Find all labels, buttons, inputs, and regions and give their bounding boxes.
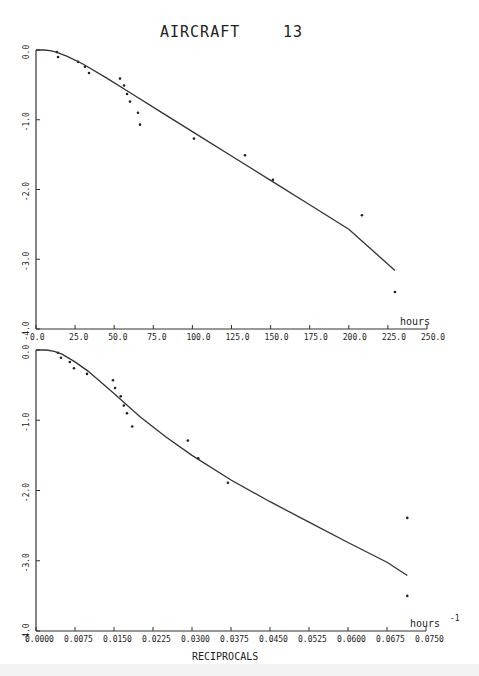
x-tick-label: 0.0525 (298, 635, 327, 644)
data-point (119, 395, 122, 398)
data-points (56, 51, 397, 294)
title-text: AIRCRAFT (160, 23, 240, 41)
x-tick-label: 0.0075 (64, 635, 93, 644)
data-point (244, 154, 247, 157)
data-point (112, 379, 115, 382)
y-tick-label: -3.0 (22, 553, 31, 572)
data-point (73, 367, 76, 370)
x-tick-label: 0.0150 (103, 635, 132, 644)
y-tick-label: 0.0 (22, 45, 31, 60)
bottom-xlabel: RECIPROCALS (192, 651, 258, 662)
x-tick-label: 175.0 (304, 333, 328, 342)
y-tick-label: -1.0 (22, 112, 31, 131)
axes: 0.00000.00750.01500.02250.03000.03750.04… (22, 345, 460, 644)
data-point (57, 56, 60, 59)
data-point (126, 412, 129, 415)
x-tick-label: 75.0 (147, 333, 166, 342)
data-point (86, 373, 89, 376)
x-tick-label: 0.0225 (142, 635, 171, 644)
scan-edge (0, 664, 479, 676)
x-tick-label: 0.0300 (181, 635, 210, 644)
y-tick-label: -3.0 (22, 251, 31, 270)
x-tick-label: 225.0 (382, 333, 406, 342)
x-tick-label: 0.0375 (220, 635, 249, 644)
x-tick-label: 25.0 (69, 333, 88, 342)
x-tick-label: 0.0750 (415, 635, 444, 644)
y-tick-label: -4.0 (22, 321, 31, 340)
data-point (69, 361, 72, 364)
data-point (119, 77, 122, 80)
y-tick-label: -1.0 (22, 412, 31, 431)
data-points (57, 352, 409, 598)
data-point (131, 425, 134, 428)
y-tick-label: -2.0 (22, 182, 31, 201)
plot-hours: 0.025.050.075.0100.0125.0150.0175.0200.0… (22, 45, 445, 342)
data-point (227, 481, 230, 484)
x-tick-label: 0.0450 (259, 635, 288, 644)
y-tick-label: 0.0 (22, 345, 31, 360)
x-tick-label: 0.0600 (337, 635, 366, 644)
x-unit-exponent: -1 (450, 614, 460, 623)
data-point (187, 439, 190, 442)
axes: 0.025.050.075.0100.0125.0150.0175.0200.0… (22, 45, 445, 342)
data-point (123, 84, 126, 87)
data-point (361, 214, 364, 217)
data-point (60, 356, 63, 359)
x-tick-label: 100.0 (186, 333, 210, 342)
x-tick-label: 200.0 (343, 333, 367, 342)
chart-canvas: AIRCRAFT 13 0.025.050.075.0100.0125.0150… (0, 0, 479, 676)
data-point (123, 404, 126, 407)
data-point (114, 387, 117, 390)
data-point (193, 137, 196, 140)
x-tick-label: 0.0 (30, 333, 45, 342)
figure: AIRCRAFT 13 0.025.050.075.0100.0125.0150… (0, 0, 479, 676)
x-unit-label: hours (410, 618, 440, 629)
title-number: 13 (283, 23, 303, 41)
data-point (139, 123, 142, 126)
y-tick-label: -2.0 (22, 483, 31, 502)
x-unit-label: hours (400, 316, 430, 327)
data-point (88, 72, 91, 75)
data-point (394, 291, 397, 294)
data-point (406, 595, 409, 598)
data-point (129, 100, 132, 103)
data-point (126, 93, 129, 96)
x-tick-label: 125.0 (226, 333, 250, 342)
data-point (137, 111, 140, 114)
plot-reciprocals: 0.00000.00750.01500.02250.03000.03750.04… (22, 345, 460, 644)
x-tick-label: 150.0 (265, 333, 289, 342)
x-tick-label: 50.0 (108, 333, 127, 342)
x-tick-label: 0.0675 (376, 635, 405, 644)
y-tick-label: -4.0 (22, 623, 31, 642)
fitted-curve (36, 350, 407, 576)
x-tick-label: 250.0 (421, 333, 445, 342)
fitted-curve (36, 50, 395, 270)
data-point (406, 517, 409, 520)
xlabel-reciprocals: RECIPROCALS (192, 651, 258, 662)
chart-title: AIRCRAFT 13 (160, 23, 303, 41)
